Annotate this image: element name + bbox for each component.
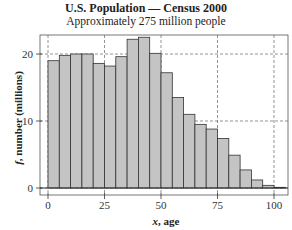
x-axis-label: x, age (0, 215, 292, 227)
histogram-bar (240, 170, 251, 188)
histogram-bar (93, 63, 104, 188)
y-axis-variable: f (12, 161, 24, 165)
histogram-bar (127, 39, 138, 188)
x-tick-label: 0 (45, 199, 51, 211)
histogram-bar (206, 129, 217, 188)
histogram-bar (218, 138, 229, 188)
x-tick-label: 75 (212, 199, 224, 211)
histogram-bar (116, 57, 127, 188)
histogram-bar (59, 55, 70, 188)
y-axis-text: , number (millions) (12, 71, 24, 161)
histogram-bar (229, 155, 240, 188)
histogram-bar (48, 61, 59, 188)
histogram-bar (251, 180, 262, 188)
histogram-bar (184, 114, 195, 188)
histogram-bar (82, 54, 93, 188)
histogram-bar (105, 66, 116, 188)
x-tick-label: 25 (99, 199, 111, 211)
x-axis-text: , age (158, 215, 179, 227)
histogram-bar (150, 53, 161, 188)
histogram-plot: 010200255075100 (0, 0, 292, 230)
histogram-bar (195, 124, 206, 188)
x-tick-label: 50 (156, 199, 168, 211)
histogram-bar (138, 37, 149, 188)
histogram-bar (71, 54, 82, 188)
y-tick-label: 0 (28, 182, 34, 194)
x-tick-label: 100 (266, 199, 283, 211)
histogram-bar (172, 98, 183, 188)
histogram-bar (161, 73, 172, 188)
y-axis-label: f, number (millions) (12, 48, 24, 188)
